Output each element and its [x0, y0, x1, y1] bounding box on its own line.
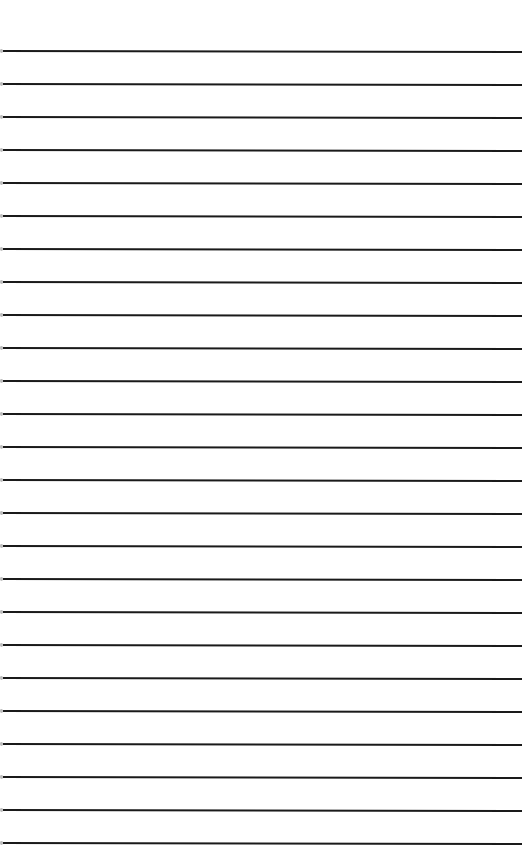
ruled-line: [3, 215, 522, 218]
ruled-line: [3, 281, 522, 284]
ruled-line: [3, 380, 522, 383]
ruled-line: [3, 611, 522, 614]
ruled-line: [3, 83, 522, 86]
ruled-line: [3, 842, 522, 845]
ruled-line: [3, 743, 522, 746]
ruled-line: [3, 413, 522, 416]
ruled-line: [3, 512, 522, 515]
ruled-line: [3, 677, 522, 680]
ruled-line: [3, 116, 522, 119]
ruled-line: [3, 809, 522, 812]
ruled-line: [3, 479, 522, 482]
ruled-line: [3, 182, 522, 185]
ruled-line: [3, 248, 522, 251]
ruled-line: [3, 644, 522, 647]
ruled-line: [3, 578, 522, 581]
lined-paper: [0, 0, 525, 865]
ruled-line: [3, 446, 522, 449]
ruled-line: [3, 545, 522, 548]
ruled-line: [3, 776, 522, 779]
ruled-line: [3, 347, 522, 350]
ruled-line: [3, 50, 522, 53]
ruled-line: [3, 314, 522, 317]
ruled-line: [3, 710, 522, 713]
ruled-line: [3, 149, 522, 152]
